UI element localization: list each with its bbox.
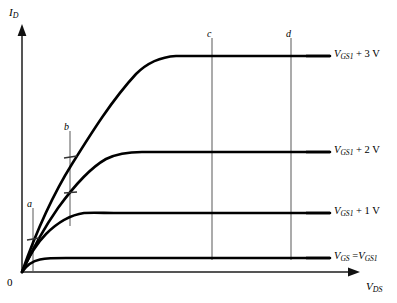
- x-axis-label-sub: DS: [373, 285, 383, 294]
- y-axis-label-sub: D: [13, 11, 19, 20]
- y-axis-arrowhead: [18, 24, 27, 36]
- curve-label-vgs-equals-vgs1-sub2: GS1: [365, 254, 378, 263]
- axes: [18, 24, 360, 276]
- label-leader-lines: [306, 56, 330, 258]
- marker-lines: [33, 38, 291, 272]
- curve-label-vgs1-plus-2-sub: GS1: [340, 148, 353, 157]
- y-axis-label: ID: [9, 6, 18, 20]
- curve-label-vgs1-plus-3-sub: GS1: [340, 52, 353, 61]
- curve-label-vgs1-plus-3: VGS1 + 3 V: [334, 48, 380, 61]
- curves: [22, 56, 330, 272]
- curve-label-vgs-equals-vgs1: VGS =VGS1: [334, 250, 378, 263]
- curve-label-vgs1-plus-1: VGS1 + 1 V: [334, 205, 380, 218]
- origin-label: 0: [7, 276, 13, 288]
- curve-label-vgs1-plus-1-rest: + 1 V: [356, 205, 380, 216]
- marker-label-c: c: [207, 28, 211, 39]
- tick-cross-b-lower: [64, 192, 77, 193]
- marker-label-a: a: [27, 198, 32, 209]
- curve-vgs1-plus-1: [22, 213, 330, 272]
- x-axis-arrowhead: [348, 268, 360, 277]
- x-axis-label-var: V: [366, 280, 373, 292]
- marker-label-d: d: [286, 28, 291, 39]
- marker-label-b: b: [64, 121, 69, 132]
- curve-label-vgs1-plus-1-sub: GS1: [340, 209, 353, 218]
- curve-vgs1-plus-3: [22, 56, 330, 272]
- curve-label-vgs-equals-vgs1-sub: GS: [340, 254, 349, 263]
- jfet-output-characteristics-figure: ID VDS 0 a b c d VGS1 + 3 V VGS1 + 2 V V…: [0, 0, 397, 303]
- curve-label-vgs1-plus-2-rest: + 2 V: [356, 144, 380, 155]
- curve-label-vgs1-plus-2: VGS1 + 2 V: [334, 144, 380, 157]
- curve-vgs-equals-vgs1: [22, 258, 330, 272]
- x-axis-label: VDS: [366, 280, 382, 294]
- curve-label-vgs1-plus-3-rest: + 3 V: [356, 48, 380, 59]
